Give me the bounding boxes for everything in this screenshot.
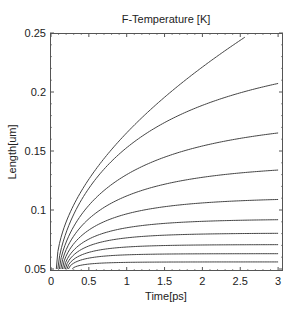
- x-tick-label: 1: [124, 275, 130, 287]
- line-chart: F-Temperature [K] Length[um] Time[ps] 00…: [0, 0, 299, 318]
- y-tick-label: 0.05: [25, 263, 46, 275]
- series-line-curve-9: [68, 254, 278, 269]
- y-tick-label: 0.15: [25, 145, 46, 157]
- series-line-curve-5: [62, 199, 278, 269]
- y-tick-label: 0.25: [25, 27, 46, 39]
- x-tick-label: 1.5: [157, 275, 172, 287]
- y-tick-label: 0.2: [31, 86, 46, 98]
- y-axis-label: Length[um]: [6, 124, 18, 179]
- x-tick-label: 3: [275, 275, 281, 287]
- x-tick-label: 2.5: [233, 275, 248, 287]
- x-tick-label: 0: [48, 275, 54, 287]
- axis-ticks: 00.511.522.530.050.10.150.20.25: [25, 27, 283, 287]
- chart-title: F-Temperature [K]: [122, 13, 211, 25]
- series-line-curve-10: [72, 262, 278, 269]
- x-tick-label: 0.5: [81, 275, 96, 287]
- x-axis-label: Time[ps]: [145, 290, 187, 302]
- x-tick-label: 2: [199, 275, 205, 287]
- y-tick-label: 0.1: [31, 204, 46, 216]
- data-series: [56, 37, 278, 269]
